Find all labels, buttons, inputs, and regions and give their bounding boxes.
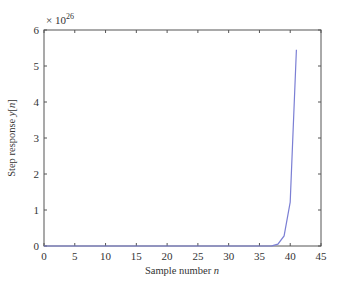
x-tick-label: 10 [100,250,112,262]
x-tick-label: 15 [131,250,143,262]
x-tick-label: 25 [192,250,204,262]
y-tick-label: 6 [34,24,40,36]
x-tick-label: 5 [72,250,78,262]
y-tick-label: 4 [34,96,40,108]
plot-area [44,30,321,246]
x-axis-label: Sample number n [145,265,219,276]
x-tick-label: 30 [223,250,235,262]
x-tick-label: 45 [316,250,328,262]
x-tick-label: 40 [285,250,297,262]
y-tick-label: 0 [34,240,40,252]
y-axis-label: Step response y[n] [6,99,17,177]
y-tick-label: 3 [34,132,40,144]
x-tick-label: 35 [254,250,266,262]
y-multiplier: × 1026 [46,12,74,26]
x-tick-label: 20 [162,250,174,262]
y-tick-label: 2 [34,168,40,180]
step-response-chart: 051015202530354045 0123456 × 1026 Sample… [0,0,345,291]
y-tick-label: 5 [34,60,40,72]
y-tick-label: 1 [34,204,40,216]
x-tick-label: 0 [41,250,47,262]
